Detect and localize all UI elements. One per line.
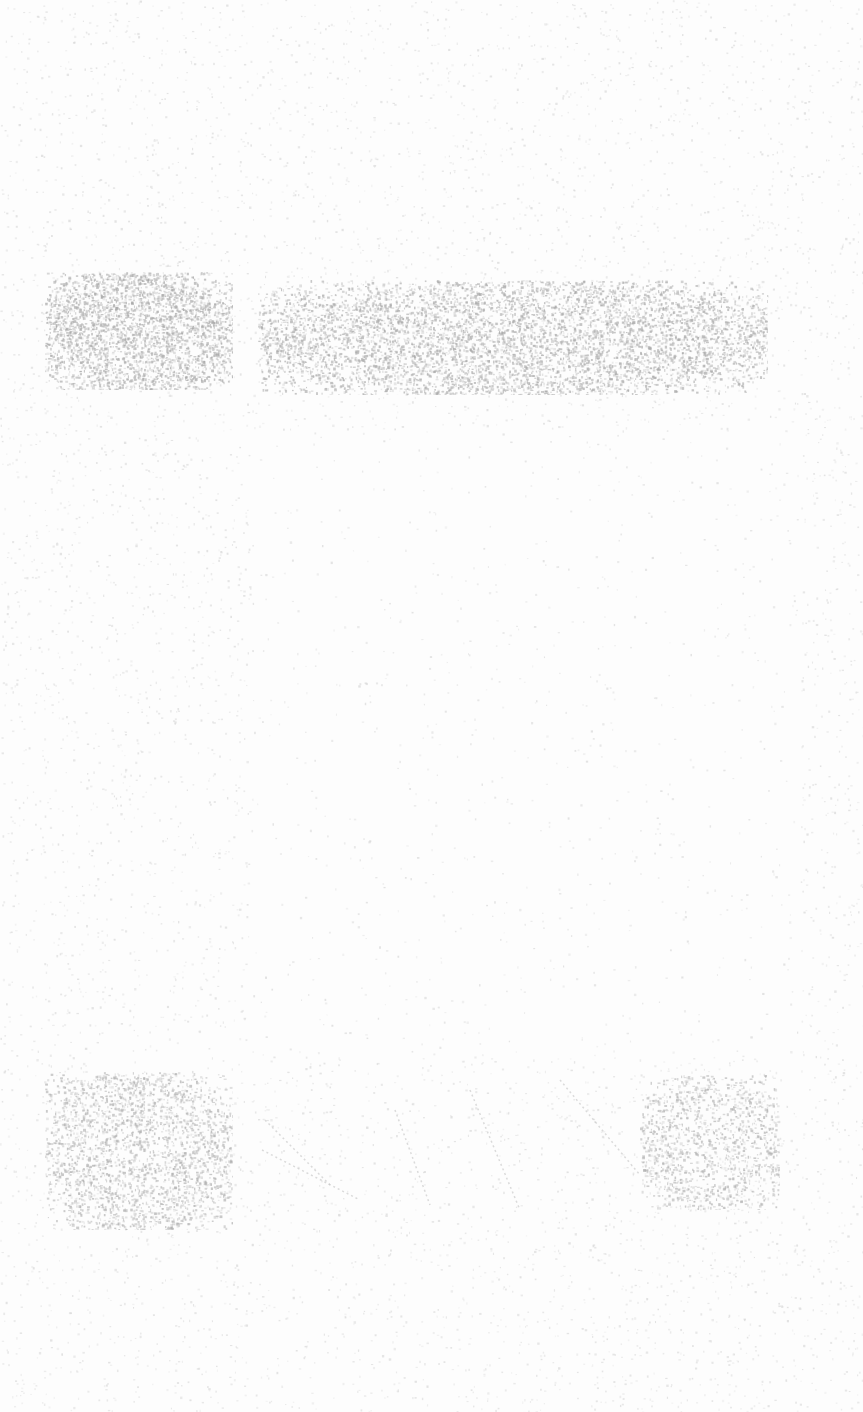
scanned-page [0,0,863,1412]
faint-diagonal-strokes [0,0,863,1412]
